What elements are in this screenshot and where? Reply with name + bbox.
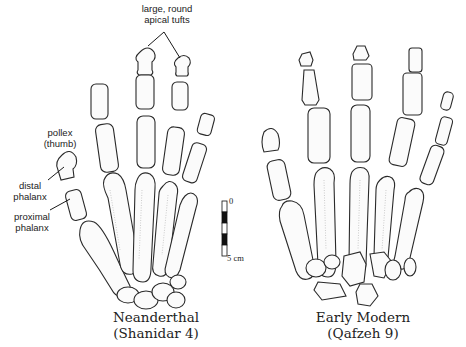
apical-tufts-label-line1: large, round [137, 4, 197, 15]
neanderthal-caption: Neanderthal (Shanidar 4) [86, 309, 226, 341]
apical-tufts-label-line2: apical tufts [137, 15, 197, 26]
proximal-phalanx-label-line2: phalanx [10, 223, 54, 234]
proximal-phalanx-label: proximal phalanx [10, 212, 54, 233]
distal-phalanx-label-line1: distal [10, 181, 50, 192]
early-modern-caption-specimen: (Qafzeh 9) [300, 325, 426, 341]
pollex-label-line1: pollex [40, 128, 80, 139]
proximal-phalanx-label-line1: proximal [10, 212, 54, 223]
apical-tufts-label: large, round apical tufts [137, 4, 197, 25]
early-modern-hand [262, 46, 454, 306]
distal-phalanx-label: distal phalanx [10, 181, 50, 202]
neanderthal-hand [57, 48, 216, 309]
neanderthal-caption-title: Neanderthal [86, 309, 226, 325]
pollex-label-line2: (thumb) [40, 139, 80, 150]
hand-bones-illustration [0, 0, 466, 347]
scale-bar-5cm-label: 5 cm [227, 253, 244, 263]
pollex-label: pollex (thumb) [40, 128, 80, 149]
distal-phalanx-label-line2: phalanx [10, 192, 50, 203]
scale-bar [222, 201, 227, 256]
early-modern-caption: Early Modern (Qafzeh 9) [300, 309, 426, 341]
neanderthal-caption-specimen: (Shanidar 4) [86, 325, 226, 341]
early-modern-caption-title: Early Modern [300, 309, 426, 325]
hand-comparison-figure: large, round apical tufts pollex (thumb)… [0, 0, 466, 347]
scale-bar-zero-label: 0 [229, 196, 233, 206]
